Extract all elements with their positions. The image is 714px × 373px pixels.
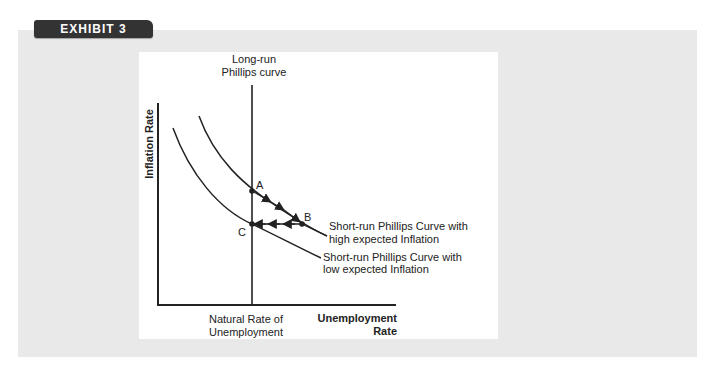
short-run-curve-low — [173, 128, 321, 258]
arrow-a-to-b-2 — [271, 202, 284, 210]
high-curve-label-line2: high expected Inflation — [329, 233, 439, 245]
natural-rate-label-line1: Natural Rate of — [209, 313, 284, 325]
low-curve-label-line1: Short-run Phillips Curve with — [323, 251, 462, 263]
arrow-a-to-b-1 — [254, 192, 271, 202]
natural-rate-label-line2: Unemployment — [209, 326, 283, 338]
arrow-a-to-b-3 — [284, 210, 300, 222]
high-curve-label-line1: Short-run Phillips Curve with — [329, 220, 468, 232]
low-curve-label-line2: low expected Inflation — [323, 263, 429, 275]
point-a — [249, 188, 255, 194]
lrpc-title-line1: Long-run — [232, 53, 276, 65]
point-c — [249, 221, 255, 227]
phillips-curve-diagram: A B C Long-run Phillips curve Inflation … — [0, 0, 714, 373]
point-b-label: B — [304, 211, 311, 223]
lrpc-title-line2: Phillips curve — [222, 66, 287, 78]
point-c-label: C — [238, 226, 246, 238]
leader-line-high — [304, 225, 327, 236]
y-axis-label: Inflation Rate — [143, 109, 155, 179]
x-axis-label-line1: Unemployment — [318, 312, 398, 324]
point-a-label: A — [256, 179, 264, 191]
x-axis-label-line2: Rate — [373, 325, 397, 337]
